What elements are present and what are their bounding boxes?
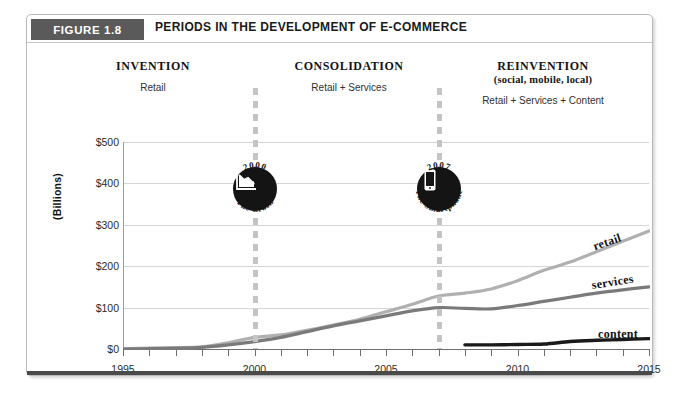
- x-axis-tick: [255, 350, 256, 356]
- x-axis-tick: [570, 350, 571, 356]
- x-axis-tick: [412, 350, 413, 356]
- x-axis-tick: [544, 350, 545, 356]
- y-axis-title: (Billions): [51, 173, 63, 220]
- x-axis-tick: [491, 350, 492, 356]
- series-line-services: [123, 287, 649, 349]
- y-axis-tick-label: $400: [77, 177, 119, 189]
- figure-number-badge: FIGURE 1.8: [31, 19, 144, 40]
- series-lines: [123, 142, 650, 350]
- svg-text:2000: 2000: [241, 160, 268, 173]
- svg-text:The Crash: The Crash: [234, 197, 275, 214]
- period-description: Retail: [63, 82, 243, 93]
- x-axis-tick: [202, 350, 203, 356]
- x-axis-tick: [439, 350, 440, 356]
- period-description: Retail + Services: [259, 82, 439, 93]
- y-axis-tick-label: $100: [77, 302, 119, 314]
- period-header-invention: INVENTION Retail: [63, 59, 243, 93]
- figure-frame: FIGURE 1.8 PERIODS IN THE DEVELOPMENT OF…: [26, 14, 653, 376]
- period-title: CONSOLIDATION: [259, 59, 439, 73]
- figure-title: PERIODS IN THE DEVELOPMENT OF E-COMMERCE: [155, 20, 467, 34]
- y-axis-tick-label: $300: [77, 219, 119, 231]
- figure-bottom-rule: [27, 371, 652, 375]
- x-axis-tick: [176, 350, 177, 356]
- x-axis-tick: [518, 350, 519, 356]
- x-axis-tick: [307, 350, 308, 356]
- x-axis-tick: [465, 350, 466, 356]
- milestone-arc-text: 2007The Smartphone: [410, 160, 468, 218]
- series-label-content: content: [598, 327, 638, 342]
- svg-text:The Smartphone: The Smartphone: [413, 189, 463, 214]
- svg-text:2007: 2007: [425, 160, 452, 173]
- x-axis-tick: [123, 350, 124, 356]
- period-header-consolidation: CONSOLIDATION Retail + Services: [259, 59, 439, 93]
- period-description: Retail + Services + Content: [445, 95, 641, 106]
- x-axis-tick: [596, 350, 597, 356]
- period-divider: [437, 88, 442, 349]
- x-axis-tick: [149, 350, 150, 356]
- x-axis-tick: [623, 350, 624, 356]
- period-header-reinvention: REINVENTION (social, mobile, local) Reta…: [445, 59, 641, 106]
- milestone-badge-2007: 2007The Smartphone: [410, 160, 468, 218]
- figure-title-bar: FIGURE 1.8 PERIODS IN THE DEVELOPMENT OF…: [27, 15, 652, 43]
- x-axis-tick: [333, 350, 334, 356]
- y-axis-tick-label: $0: [77, 343, 119, 355]
- y-axis-tick-label: $500: [77, 136, 119, 148]
- milestone-arc-text: 2000The Crash: [226, 160, 284, 218]
- x-axis-tick: [386, 350, 387, 356]
- x-axis-tick: [281, 350, 282, 356]
- period-divider: [253, 88, 258, 349]
- period-title: INVENTION: [63, 59, 243, 73]
- x-axis-tick: [228, 350, 229, 356]
- y-axis-tick-labels: $500$400$300$200$100$0: [71, 142, 119, 349]
- y-axis-tick-label: $200: [77, 260, 119, 272]
- period-title: REINVENTION: [445, 59, 641, 73]
- series-line-retail: [123, 231, 649, 349]
- x-axis-tick: [649, 350, 650, 356]
- period-subtitle: (social, mobile, local): [445, 73, 641, 86]
- x-axis-tick: [360, 350, 361, 356]
- milestone-badge-2000: 2000The Crash: [226, 160, 284, 218]
